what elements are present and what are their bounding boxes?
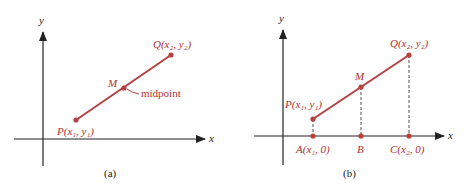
caption-a: (a) (104, 168, 116, 179)
point-m-label-a: M (108, 78, 117, 89)
x-axis-label-b: x (448, 130, 453, 141)
point-p-b (310, 116, 315, 121)
point-m-b (358, 84, 363, 89)
point-a-b (310, 133, 315, 138)
y-axis-label-b: y (279, 13, 284, 24)
point-q-a (168, 52, 173, 57)
panel-a (14, 32, 205, 166)
point-q-label-b: Q(x₂, y₂) (390, 38, 428, 49)
point-q-b (406, 52, 411, 57)
caption-b: (b) (343, 168, 356, 179)
point-c-label-b: C(x₂, 0) (390, 144, 424, 155)
point-m-a (121, 85, 126, 90)
midpoint-pointer (127, 89, 139, 94)
midpoint-label: midpoint (141, 88, 181, 99)
point-b-b (358, 133, 363, 138)
y-axis-label-a: y (39, 15, 44, 26)
point-p-a (73, 117, 78, 122)
point-q-label-a: Q(x₂, y₂) (153, 39, 191, 50)
point-c-b (406, 133, 411, 138)
point-a-label-b: A(x₁, 0) (296, 144, 330, 155)
diagram-canvas (0, 0, 467, 191)
point-p-label-a: P(x₁, y₁) (57, 126, 94, 137)
point-b-label-b: B (357, 144, 364, 155)
point-m-label-b: M (355, 71, 364, 82)
x-axis-label-a: x (209, 133, 214, 144)
point-p-label-b: P(x₁, y₁) (285, 99, 322, 110)
